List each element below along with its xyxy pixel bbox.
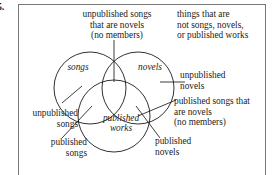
label-set-published-works: published works bbox=[93, 113, 149, 134]
label-unpublished-novels: unpublished novels bbox=[180, 70, 266, 91]
label-set-songs: songs bbox=[57, 62, 99, 72]
label-set-novels: novels bbox=[128, 62, 172, 72]
label-published-songs-that-are-novels: published songs that are novels (no memb… bbox=[174, 96, 270, 128]
label-things-not-songs-novels-or-published-works: things that are not songs, novels, or pu… bbox=[177, 9, 269, 41]
label-unpublished-songs-that-are-novels: unpublished songs that are novels (no me… bbox=[62, 9, 172, 41]
label-published-songs: published songs bbox=[12, 137, 87, 158]
leader-unpub-songs bbox=[62, 86, 82, 103]
label-published-novels: published novels bbox=[155, 136, 219, 157]
label-unpublished-songs: unpublished songs bbox=[2, 108, 78, 129]
figure-page: 5. unpublished songs that are novels (n bbox=[0, 0, 273, 175]
